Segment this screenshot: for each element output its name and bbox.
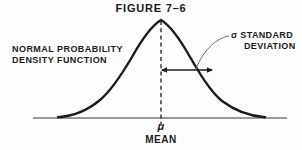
mean-label: MEAN bbox=[0, 134, 302, 146]
pdf-label-line2: DENSITY FUNCTION bbox=[12, 55, 107, 65]
sigma-arrow bbox=[161, 67, 213, 72]
pdf-label: NORMAL PROBABILITYDENSITY FUNCTION bbox=[12, 44, 123, 65]
sigma-label-line1: σ STANDARD bbox=[231, 30, 293, 40]
figure-container: FIGURE 7–6 NORMAL PROBABILITYDENSITY FUN… bbox=[0, 0, 302, 150]
figure-title: FIGURE 7–6 bbox=[0, 2, 302, 15]
sigma-leader-line bbox=[196, 36, 229, 69]
sigma-arrow-head-left bbox=[161, 67, 167, 72]
sigma-arrow-head-right bbox=[207, 67, 213, 72]
sigma-standard-deviation-label: σ STANDARDDEVIATION bbox=[231, 30, 296, 51]
mu-symbol-label: μ bbox=[0, 120, 302, 133]
sigma-label-line2: DEVIATION bbox=[231, 41, 296, 52]
pdf-label-line1: NORMAL PROBABILITY bbox=[12, 44, 123, 54]
